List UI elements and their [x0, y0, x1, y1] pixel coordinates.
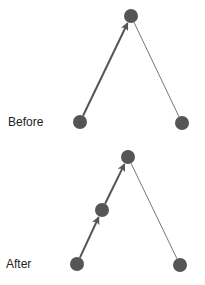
undirected-edge: [131, 163, 177, 258]
node-bottom-right: [175, 116, 189, 130]
before-panel: [73, 9, 189, 130]
node-bottom-left: [70, 257, 84, 271]
node-middle: [95, 203, 109, 217]
after-panel: [70, 150, 187, 272]
undirected-edge: [134, 22, 179, 116]
node-bottom-right: [173, 258, 187, 272]
directed-edge-arrow: [80, 217, 99, 257]
node-top: [124, 9, 138, 23]
node-bottom-left: [73, 115, 87, 129]
directed-edge-arrow: [83, 23, 127, 115]
diagram-canvas: [0, 0, 205, 285]
node-top: [121, 150, 135, 164]
before-label: Before: [8, 116, 43, 128]
after-label: After: [6, 258, 31, 270]
directed-edge-arrow: [105, 164, 124, 204]
